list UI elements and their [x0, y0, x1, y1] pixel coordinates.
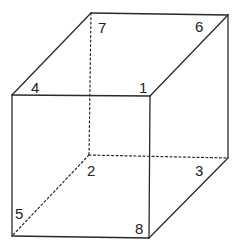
vertex-label-7: 7 [98, 19, 106, 36]
edge-7-6 [91, 13, 228, 15]
edge-5-8 [12, 236, 149, 238]
vertex-labels: 12345678 [15, 18, 203, 237]
vertex-label-2: 2 [87, 162, 95, 179]
vertex-label-4: 4 [31, 79, 39, 96]
vertex-label-3: 3 [195, 162, 203, 179]
cube-edges [12, 13, 228, 238]
cube-drawing: 12345678 [0, 0, 237, 252]
edge-8-3 [149, 158, 228, 238]
hidden-edge-7-2 [89, 13, 91, 155]
hidden-edge-2-3 [89, 155, 228, 158]
edge-1-8 [149, 96, 150, 238]
hidden-edge-2-5 [12, 155, 89, 236]
edge-1-6 [150, 15, 228, 96]
cube-diagram: 12345678 [0, 0, 237, 252]
vertex-label-6: 6 [195, 18, 203, 35]
edge-4-7 [12, 13, 91, 95]
vertex-label-5: 5 [15, 205, 23, 222]
vertex-label-1: 1 [139, 79, 147, 96]
vertex-label-8: 8 [135, 220, 143, 237]
